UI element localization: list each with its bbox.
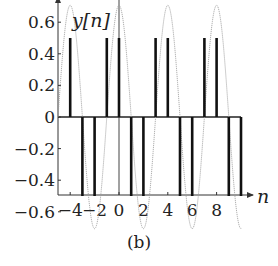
y-tick-label: 0 — [44, 107, 55, 127]
y-tick-label: 0.2 — [28, 75, 55, 95]
y-tick-label: −0.4 — [14, 170, 55, 190]
x-tick-label: 4 — [162, 200, 173, 220]
y-tick-label: 0.4 — [28, 44, 55, 64]
y-axis-label: y[n] — [71, 9, 110, 31]
x-tick-label: 8 — [211, 200, 222, 220]
x-axis-label: n — [257, 185, 269, 207]
figure-caption: (b) — [0, 232, 278, 252]
y-tick-label: −0.6 — [14, 202, 55, 222]
x-tick-label: 0 — [114, 200, 125, 220]
y-tick-label: 0.6 — [28, 12, 55, 32]
x-tick-label: −2 — [82, 200, 107, 220]
x-axis-arrow-icon — [247, 192, 254, 198]
stem-plot: −0.6−0.4−0.200.20.40.6−4−202468y[n]n — [0, 0, 278, 232]
y-axis-arrow-icon — [55, 0, 61, 3]
x-tick-label: −4 — [58, 200, 83, 220]
y-tick-label: −0.2 — [14, 139, 55, 159]
